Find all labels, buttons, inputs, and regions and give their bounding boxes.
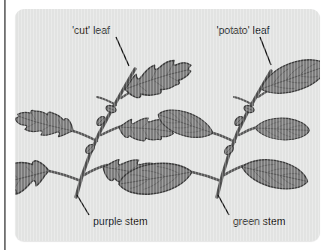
figure-page: 'cut' leaf 'potato' leaf purple stem gre… bbox=[0, 0, 333, 250]
leaf-cut-labelled bbox=[121, 56, 196, 103]
leaf-cut bbox=[15, 156, 52, 201]
leaf-cut bbox=[15, 103, 76, 143]
plant-comparison-illustration: 'cut' leaf 'potato' leaf purple stem gre… bbox=[15, 9, 320, 241]
leader-line-purple-stem bbox=[77, 195, 89, 215]
label-cut-leaf: 'cut' leaf bbox=[72, 24, 110, 36]
leaf-potato bbox=[154, 103, 216, 144]
label-potato-leaf: 'potato' leaf bbox=[216, 24, 269, 36]
leaf-potato bbox=[239, 153, 311, 195]
leader-line-cut-leaf bbox=[116, 37, 129, 66]
leader-line-potato-leaf bbox=[260, 37, 271, 65]
leaf-potato bbox=[254, 116, 310, 142]
label-purple-stem: purple stem bbox=[93, 215, 148, 227]
leader-line-green-stem bbox=[218, 195, 229, 215]
page-left-margin-rule-shadow bbox=[4, 0, 5, 250]
illustration-panel: 'cut' leaf 'potato' leaf purple stem gre… bbox=[15, 9, 320, 241]
label-green-stem: green stem bbox=[233, 215, 286, 227]
